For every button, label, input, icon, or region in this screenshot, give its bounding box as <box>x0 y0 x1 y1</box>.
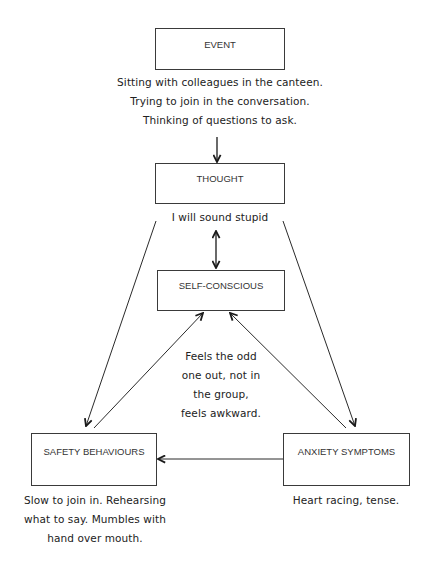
node-anxiety-symptoms-box: ANXIETY SYMPTOMS <box>283 433 410 486</box>
node-self-conscious-box: SELF-CONSCIOUS <box>157 270 285 311</box>
node-safety-behaviours-caption: Slow to join in. Rehearsing what to say.… <box>10 491 180 548</box>
node-self-conscious-label: SELF-CONSCIOUS <box>158 280 284 291</box>
node-safety-behaviours-label: SAFETY BEHAVIOURS <box>32 446 156 457</box>
node-event-caption: Sitting with colleagues in the canteen. … <box>96 73 344 130</box>
node-event-box: EVENT <box>155 28 285 70</box>
node-thought-label: THOUGHT <box>156 173 284 184</box>
arrow-thought-to-anxiety <box>283 221 355 426</box>
node-thought-box: THOUGHT <box>155 163 285 204</box>
node-safety-behaviours-box: SAFETY BEHAVIOURS <box>31 433 157 486</box>
node-self-conscious-caption: Feels the odd one out, not in the group,… <box>168 347 274 423</box>
node-anxiety-symptoms-caption: Heart racing, tense. <box>276 491 416 510</box>
node-thought-caption: I will sound stupid <box>146 208 294 227</box>
node-anxiety-symptoms-label: ANXIETY SYMPTOMS <box>284 446 409 457</box>
arrow-thought-to-safety <box>86 221 156 426</box>
node-event-label: EVENT <box>156 39 284 50</box>
